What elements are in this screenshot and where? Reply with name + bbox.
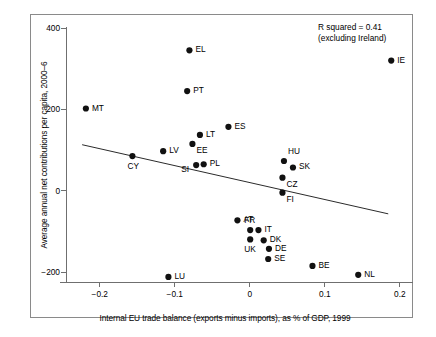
x-tick-label: −0.1	[167, 289, 183, 299]
data-point-label-lt: LT	[206, 130, 215, 138]
data-point-label-hu: HU	[288, 147, 300, 155]
data-point-dk	[261, 237, 267, 243]
data-point-label-se: SE	[274, 254, 285, 262]
data-point-label-si: SI	[181, 165, 189, 173]
data-point-uk	[247, 236, 253, 242]
data-point-sk	[290, 164, 296, 170]
x-tick-label: −0.2	[92, 289, 108, 299]
data-point-el	[186, 47, 192, 53]
plot-area	[0, 0, 436, 337]
trend-line	[82, 145, 388, 214]
y-tick-label: 200	[20, 104, 60, 114]
x-tick-label: 0.1	[319, 289, 331, 299]
data-point-label-uk: UK	[244, 245, 256, 253]
data-point-label-ee: EE	[196, 146, 207, 154]
data-point-at	[234, 217, 240, 223]
data-point-label-lv: LV	[169, 146, 179, 154]
data-point-es	[225, 124, 231, 130]
data-point-fr	[247, 227, 253, 233]
x-tick-label: 0.2	[394, 289, 406, 299]
data-point-label-el: EL	[195, 45, 205, 53]
data-point-label-cz: CZ	[286, 180, 297, 188]
data-point-label-fr: FR	[244, 216, 255, 224]
x-tick-label: 0	[248, 289, 253, 299]
data-point-label-lu: LU	[174, 272, 185, 280]
data-point-si	[193, 162, 199, 168]
data-point-cy	[129, 153, 135, 159]
data-point-be	[309, 263, 315, 269]
data-point-it	[255, 227, 261, 233]
data-point-de	[266, 246, 272, 252]
y-tick-label: −200	[20, 267, 60, 277]
y-tick-label: 400	[20, 23, 60, 33]
data-point-lu	[165, 274, 171, 280]
y-tick-label: 0	[20, 186, 60, 196]
data-point-ie	[388, 57, 394, 63]
data-point-label-fi: FI	[286, 195, 293, 203]
data-point-lt	[197, 132, 203, 138]
data-point-label-de: DE	[275, 244, 287, 252]
data-point-label-nl: NL	[364, 270, 375, 278]
data-point-label-mt: MT	[92, 104, 104, 112]
data-point-label-cy: CY	[127, 162, 139, 170]
data-point-ee	[189, 141, 195, 147]
data-point-lv	[160, 148, 166, 154]
data-point-label-it: IT	[264, 225, 271, 233]
scatter-chart-figure: Average annual net contributions per cap…	[0, 0, 436, 337]
data-point-label-sk: SK	[299, 162, 310, 170]
data-point-mt	[83, 105, 89, 111]
data-point-nl	[355, 272, 361, 278]
data-point-se	[265, 256, 271, 262]
data-point-pl	[201, 161, 207, 167]
data-point-label-be: BE	[318, 261, 329, 269]
data-point-pt	[184, 88, 190, 94]
data-point-label-pt: PT	[193, 86, 204, 94]
data-point-hu	[281, 158, 287, 164]
data-point-label-ie: IE	[397, 56, 405, 64]
data-point-fi	[279, 190, 285, 196]
data-point-cz	[279, 175, 285, 181]
data-point-label-pl: PL	[210, 159, 220, 167]
data-point-label-es: ES	[234, 122, 245, 130]
